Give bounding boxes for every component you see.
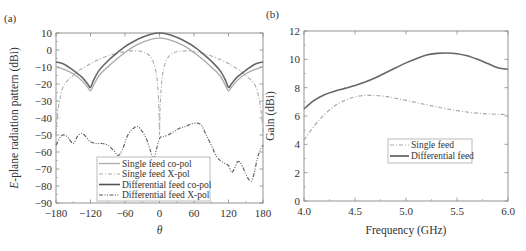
y-tick-label: 10 — [289, 53, 301, 65]
panel-label-a: (a) — [4, 12, 17, 25]
y-axis-label-a-italic: E — [8, 182, 20, 190]
y-axis-label-a: E-plane radiation pattern (dBi) — [8, 47, 21, 190]
y-tick-label: −50 — [35, 129, 53, 141]
x-tick-label: 60 — [189, 207, 201, 219]
y-tick-label: 6 — [295, 110, 301, 122]
x-axis-label-a: θ — [157, 224, 163, 236]
y-tick-label: 8 — [295, 82, 301, 94]
x-tick-label: 5.5 — [450, 205, 464, 217]
y-tick-label: −90 — [35, 197, 53, 209]
svg-text:Single feed X-pol: Single feed X-pol — [122, 169, 190, 179]
series-line-2 — [56, 33, 263, 87]
y-tick-label: 4 — [295, 138, 301, 150]
y-tick-label: −70 — [35, 163, 53, 175]
chart-panel-a: (a) −180−120−60060120180100−10−20−30−40−… — [4, 12, 272, 236]
svg-text:Single feed: Single feed — [411, 140, 454, 150]
x-tick-label: 180 — [255, 207, 272, 219]
y-tick-label: −20 — [35, 78, 53, 90]
y-axis-label-b: Gain (dBi) — [264, 91, 277, 141]
curves-b — [304, 53, 508, 140]
y-tick-label: −10 — [35, 61, 53, 73]
y-tick-label: 0 — [47, 44, 53, 56]
panel-label-b: (b) — [266, 8, 279, 21]
y-tick-label: −30 — [35, 95, 53, 107]
y-tick-label: 2 — [295, 167, 301, 179]
series-line-1 — [56, 51, 263, 135]
y-tick-label: 0 — [295, 195, 301, 207]
axis-ticks-b: 4.04.55.05.56.0024681012 — [289, 25, 515, 217]
x-tick-label: 0 — [157, 207, 163, 219]
x-tick-label: 120 — [220, 207, 237, 219]
y-tick-label: −40 — [35, 112, 53, 124]
x-tick-label: 5.0 — [399, 205, 413, 217]
legend-b: Single feed Differential feed — [388, 139, 474, 163]
y-tick-label: 12 — [289, 25, 300, 37]
x-tick-label: 4.5 — [348, 205, 362, 217]
svg-text:Differential feed co-pol: Differential feed co-pol — [122, 180, 212, 190]
x-tick-label: −60 — [116, 207, 134, 219]
legend-a: Single feed co-pol Single feed X-pol Dif… — [97, 157, 212, 201]
x-axis-label-b: Frequency (GHz) — [366, 224, 447, 237]
figure-canvas: (a) −180−120−60060120180100−10−20−30−40−… — [0, 0, 526, 251]
chart-panel-b: (b) 4.04.55.05.56.0024681012 Frequency (… — [264, 8, 515, 237]
x-tick-label: 6.0 — [501, 205, 515, 217]
plot-frame-b — [304, 31, 508, 201]
series-line-0 — [304, 95, 508, 140]
y-axis-label-a-rest: -plane radiation pattern (dBi) — [8, 47, 21, 182]
figure: (a) −180−120−60060120180100−10−20−30−40−… — [0, 0, 526, 251]
y-tick-label: −80 — [35, 180, 53, 192]
svg-text:Single feed co-pol: Single feed co-pol — [122, 159, 192, 169]
x-tick-label: −120 — [79, 207, 102, 219]
svg-text:Differential feed X-pol: Differential feed X-pol — [122, 190, 210, 200]
y-tick-label: −60 — [35, 146, 53, 158]
svg-text:Differential feed: Differential feed — [411, 151, 474, 161]
y-tick-label: 10 — [41, 27, 53, 39]
